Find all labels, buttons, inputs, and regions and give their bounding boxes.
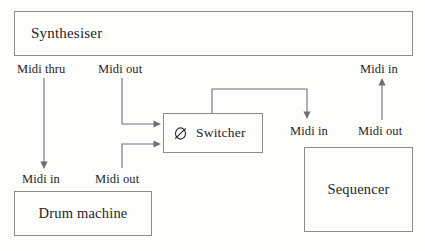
phi-slashed-circle-icon — [172, 125, 189, 142]
device-label-drum-machine: Drum machine — [39, 205, 128, 222]
port-label-drum-midi-in: Midi in — [22, 172, 60, 187]
device-label-sequencer: Sequencer — [327, 181, 389, 198]
connector-synth-thru-to-drum-in — [40, 78, 47, 169]
device-box-switcher: Switcher — [163, 113, 263, 153]
device-box-drum-machine: Drum machine — [14, 191, 152, 236]
device-label-synthesiser: Synthesiser — [31, 25, 102, 42]
device-label-switcher: Switcher — [196, 125, 246, 141]
port-label-synth-midi-thru: Midi thru — [17, 62, 65, 77]
device-box-sequencer: Sequencer — [304, 147, 413, 232]
port-label-sequencer-midi-in: Midi in — [290, 124, 328, 139]
port-label-synth-midi-out: Midi out — [98, 62, 142, 77]
midi-connection-diagram: Synthesiser Switcher Drum machine Sequen… — [0, 0, 425, 251]
port-label-drum-midi-out: Midi out — [95, 172, 139, 187]
connector-drum-out-to-switcher — [122, 140, 161, 168]
device-box-synthesiser: Synthesiser — [14, 11, 413, 56]
port-label-synth-midi-in: Midi in — [360, 62, 398, 77]
connector-synth-out-to-switcher — [122, 78, 161, 128]
port-label-sequencer-midi-out: Midi out — [358, 124, 402, 139]
connector-sequencer-out-to-synth-in — [378, 78, 385, 120]
